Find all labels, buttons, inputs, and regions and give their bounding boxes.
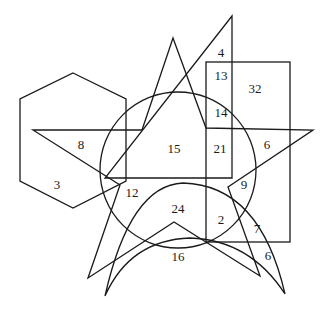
shapes-diagram: 413321481521639122427166 (0, 0, 327, 312)
region-label: 15 (168, 141, 181, 156)
region-labels: 413321481521639122427166 (54, 45, 272, 264)
region-label: 24 (172, 201, 186, 216)
region-label: 12 (126, 185, 139, 200)
region-label: 32 (249, 81, 262, 96)
region-label: 16 (172, 249, 186, 264)
region-label: 14 (215, 105, 229, 120)
region-label: 7 (254, 221, 261, 236)
hexagon (20, 73, 126, 208)
region-label: 13 (215, 68, 228, 83)
region-label: 21 (214, 141, 227, 156)
region-label: 4 (218, 45, 225, 60)
region-label: 6 (264, 137, 271, 152)
region-label: 8 (78, 137, 85, 152)
region-label: 2 (218, 212, 225, 227)
region-label: 6 (265, 248, 272, 263)
region-label: 3 (54, 177, 61, 192)
region-label: 9 (241, 177, 248, 192)
